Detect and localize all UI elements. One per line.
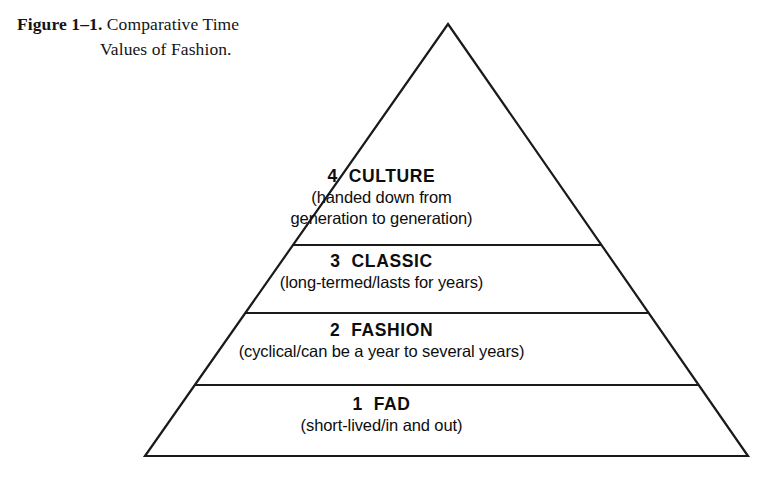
figure-container: Figure 1–1. Comparative Time Values of F… <box>0 0 763 478</box>
pyramid-diagram <box>0 0 763 478</box>
pyramid-outline <box>145 24 748 456</box>
